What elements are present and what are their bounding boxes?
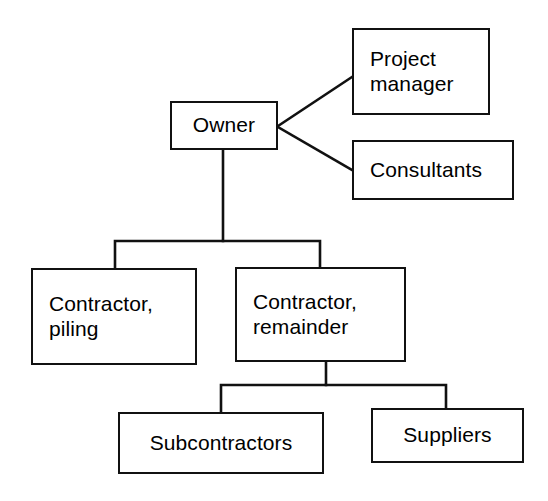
node-subcontractors[interactable]: Subcontractors: [118, 412, 324, 474]
node-subcontractors-label: Subcontractors: [150, 431, 293, 456]
edge-owner-to-project-manager: [278, 77, 352, 126]
edge-contractor-remainder-to-suppliers: [326, 385, 446, 409]
node-suppliers[interactable]: Suppliers: [371, 408, 524, 463]
node-owner[interactable]: Owner: [170, 101, 278, 150]
node-consultants[interactable]: Consultants: [352, 140, 514, 200]
node-contractor-remainder-label: Contractor, remainder: [237, 290, 357, 340]
node-contractor-remainder[interactable]: Contractor, remainder: [235, 267, 406, 362]
node-owner-label: Owner: [193, 113, 255, 138]
org-chart-diagram: Owner Project manager Consultants Contra…: [0, 0, 548, 501]
node-project-manager[interactable]: Project manager: [352, 28, 490, 115]
edge-owner-to-contractor-remainder: [223, 241, 320, 268]
edge-contractor-remainder-to-subcontractors: [221, 362, 326, 413]
node-consultants-label: Consultants: [354, 158, 482, 183]
edge-owner-to-contractor-piling: [115, 150, 223, 269]
edge-owner-to-consultants: [278, 127, 352, 170]
node-suppliers-label: Suppliers: [403, 423, 491, 448]
node-contractor-piling-label: Contractor, piling: [33, 292, 153, 342]
node-project-manager-label: Project manager: [354, 47, 454, 97]
node-contractor-piling[interactable]: Contractor, piling: [31, 268, 197, 365]
